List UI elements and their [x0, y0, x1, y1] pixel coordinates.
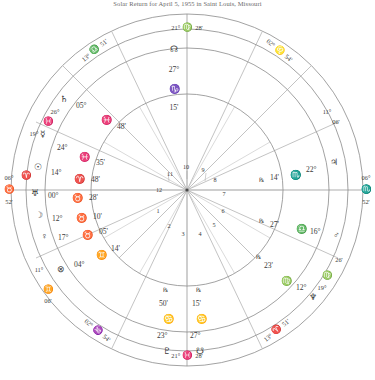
svg-text:6: 6 [221, 207, 224, 214]
svg-text:23': 23' [264, 261, 274, 270]
svg-text:☿: ☿ [40, 129, 46, 139]
svg-text:11°: 11° [323, 108, 332, 115]
svg-text:♋: ♋ [163, 313, 174, 325]
svg-text:23°: 23° [157, 331, 168, 340]
wheel-center [185, 188, 188, 191]
planet-north-node: ☊ 27° ♑ 15' [169, 44, 180, 112]
svg-text:♋: ♋ [196, 313, 207, 325]
svg-text:48': 48' [117, 122, 127, 131]
planet-uranus: ♅ 00° ♉ 28' [31, 188, 99, 204]
svg-text:4: 4 [198, 230, 201, 237]
svg-text:♂: ♂ [333, 230, 340, 240]
cusp-5: 13°♈51' [261, 316, 292, 344]
cusp-6: 26' ♍ 19° [318, 256, 343, 291]
svg-text:7: 7 [222, 190, 225, 197]
svg-text:☉: ☉ [34, 162, 42, 172]
cusp-8: 11° 06' [323, 108, 340, 125]
svg-text:12°: 12° [296, 283, 307, 292]
planet-part-of-fortune: ⊗ 04° ♊ 14' [57, 244, 121, 274]
svg-text:♉: ♉ [4, 184, 15, 194]
svg-text:19°: 19° [30, 130, 39, 137]
astrology-wheel: 21°♍28' 21°♓28' 13°♎51' 02°♌54' 02°♒54' [0, 10, 375, 378]
svg-text:♀: ♀ [41, 231, 48, 241]
svg-text:50': 50' [159, 299, 169, 308]
svg-text:52': 52' [5, 198, 13, 205]
svg-text:27°: 27° [169, 65, 180, 74]
svg-text:06': 06' [44, 297, 52, 304]
svg-text:48': 48' [91, 175, 101, 184]
svg-text:♈: ♈ [21, 170, 32, 180]
planet-neptune: ℞ 23' ♍ 12° ♆ [256, 254, 317, 302]
svg-text:♓: ♓ [43, 116, 54, 126]
svg-text:⊗: ⊗ [57, 264, 65, 274]
svg-text:☋: ☋ [196, 346, 204, 356]
svg-text:00°: 00° [48, 191, 59, 200]
svg-text:04°: 04° [74, 260, 85, 269]
svg-text:06°: 06° [362, 174, 371, 181]
cusp-asc: 06° ♉ 52' [4, 174, 15, 205]
chart-title: Solar Return for April 5, 1955 in Saint … [0, 0, 375, 7]
svg-text:05°: 05° [76, 101, 87, 110]
svg-text:☊: ☊ [170, 44, 178, 54]
svg-text:1: 1 [156, 207, 159, 214]
svg-text:♄: ♄ [60, 94, 68, 104]
svg-text:♈: ♈ [74, 173, 85, 185]
svg-text:16°: 16° [310, 227, 321, 236]
svg-text:28': 28' [89, 193, 99, 202]
svg-text:26': 26' [335, 256, 343, 263]
svg-text:06°: 06° [5, 174, 14, 181]
cusp-11: 26° ♓ [43, 108, 60, 126]
svg-text:10: 10 [183, 163, 189, 170]
svg-text:♆: ♆ [309, 292, 317, 302]
planet-south-node: ℞ 15' ♋ 27° ☋ [190, 287, 207, 356]
svg-text:♓: ♓ [101, 114, 112, 126]
svg-text:11: 11 [167, 170, 173, 177]
svg-text:17°: 17° [58, 233, 69, 242]
cusp-10: 13°♎51' [79, 36, 110, 64]
svg-text:06': 06' [332, 118, 340, 125]
svg-text:9: 9 [201, 166, 204, 173]
svg-text:♉: ♉ [76, 212, 87, 224]
svg-text:52': 52' [362, 198, 370, 205]
svg-text:♏: ♏ [290, 169, 301, 181]
svg-text:♇: ♇ [163, 346, 171, 356]
svg-text:27': 27' [270, 220, 280, 229]
cusp-9: 02°♌54' [265, 36, 296, 64]
svg-text:3: 3 [181, 230, 184, 237]
svg-text:℞: ℞ [259, 177, 264, 183]
planet-labels: ♄ 05° ♓ 48' ☿ 24° ♓ 35' ☉ 14° ♈ 48' ♅ 00… [31, 44, 340, 356]
svg-text:♉: ♉ [82, 229, 93, 241]
planet-pluto: ℞ 50' ♋ 23° ♇ [157, 287, 174, 356]
svg-text:♉: ♉ [72, 192, 83, 204]
svg-text:14°: 14° [51, 168, 62, 177]
planet-venus: ♀ 17° ♉ 05' [41, 227, 109, 242]
svg-text:♓: ♓ [79, 151, 90, 163]
svg-text:19°: 19° [318, 284, 327, 291]
svg-text:14': 14' [111, 244, 121, 253]
svg-text:☽: ☽ [35, 210, 43, 220]
cusp-mc: 21°♍28' [171, 22, 203, 32]
svg-text:15': 15' [170, 103, 180, 112]
planet-mercury: ☿ 24° ♓ 35' [40, 129, 106, 167]
svg-text:♍: ♍ [322, 270, 333, 280]
cusp-2: 11° ♊ 06' [35, 266, 54, 304]
svg-text:♊: ♊ [43, 284, 54, 294]
svg-text:10': 10' [93, 212, 103, 221]
svg-text:05': 05' [99, 227, 109, 236]
svg-text:22°: 22° [306, 165, 317, 174]
cusp-3: 02°♒54' [83, 316, 114, 344]
svg-text:♏: ♏ [361, 184, 372, 194]
cusp-dsc: 06° ♏ 52' [361, 174, 372, 205]
svg-text:♃: ♃ [330, 157, 338, 167]
svg-text:♅: ♅ [31, 188, 39, 198]
svg-text:2: 2 [167, 222, 170, 229]
planet-moon: ☽ 12° ♉ 10' [35, 210, 103, 224]
svg-text:35': 35' [96, 158, 106, 167]
svg-text:12: 12 [156, 186, 162, 193]
svg-text:♎: ♎ [296, 223, 307, 235]
svg-text:24°: 24° [57, 143, 68, 152]
svg-text:♑: ♑ [169, 83, 180, 95]
svg-text:15': 15' [192, 299, 202, 308]
svg-text:27°: 27° [190, 331, 201, 340]
planet-saturn: ♄ 05° ♓ 48' [60, 94, 127, 131]
